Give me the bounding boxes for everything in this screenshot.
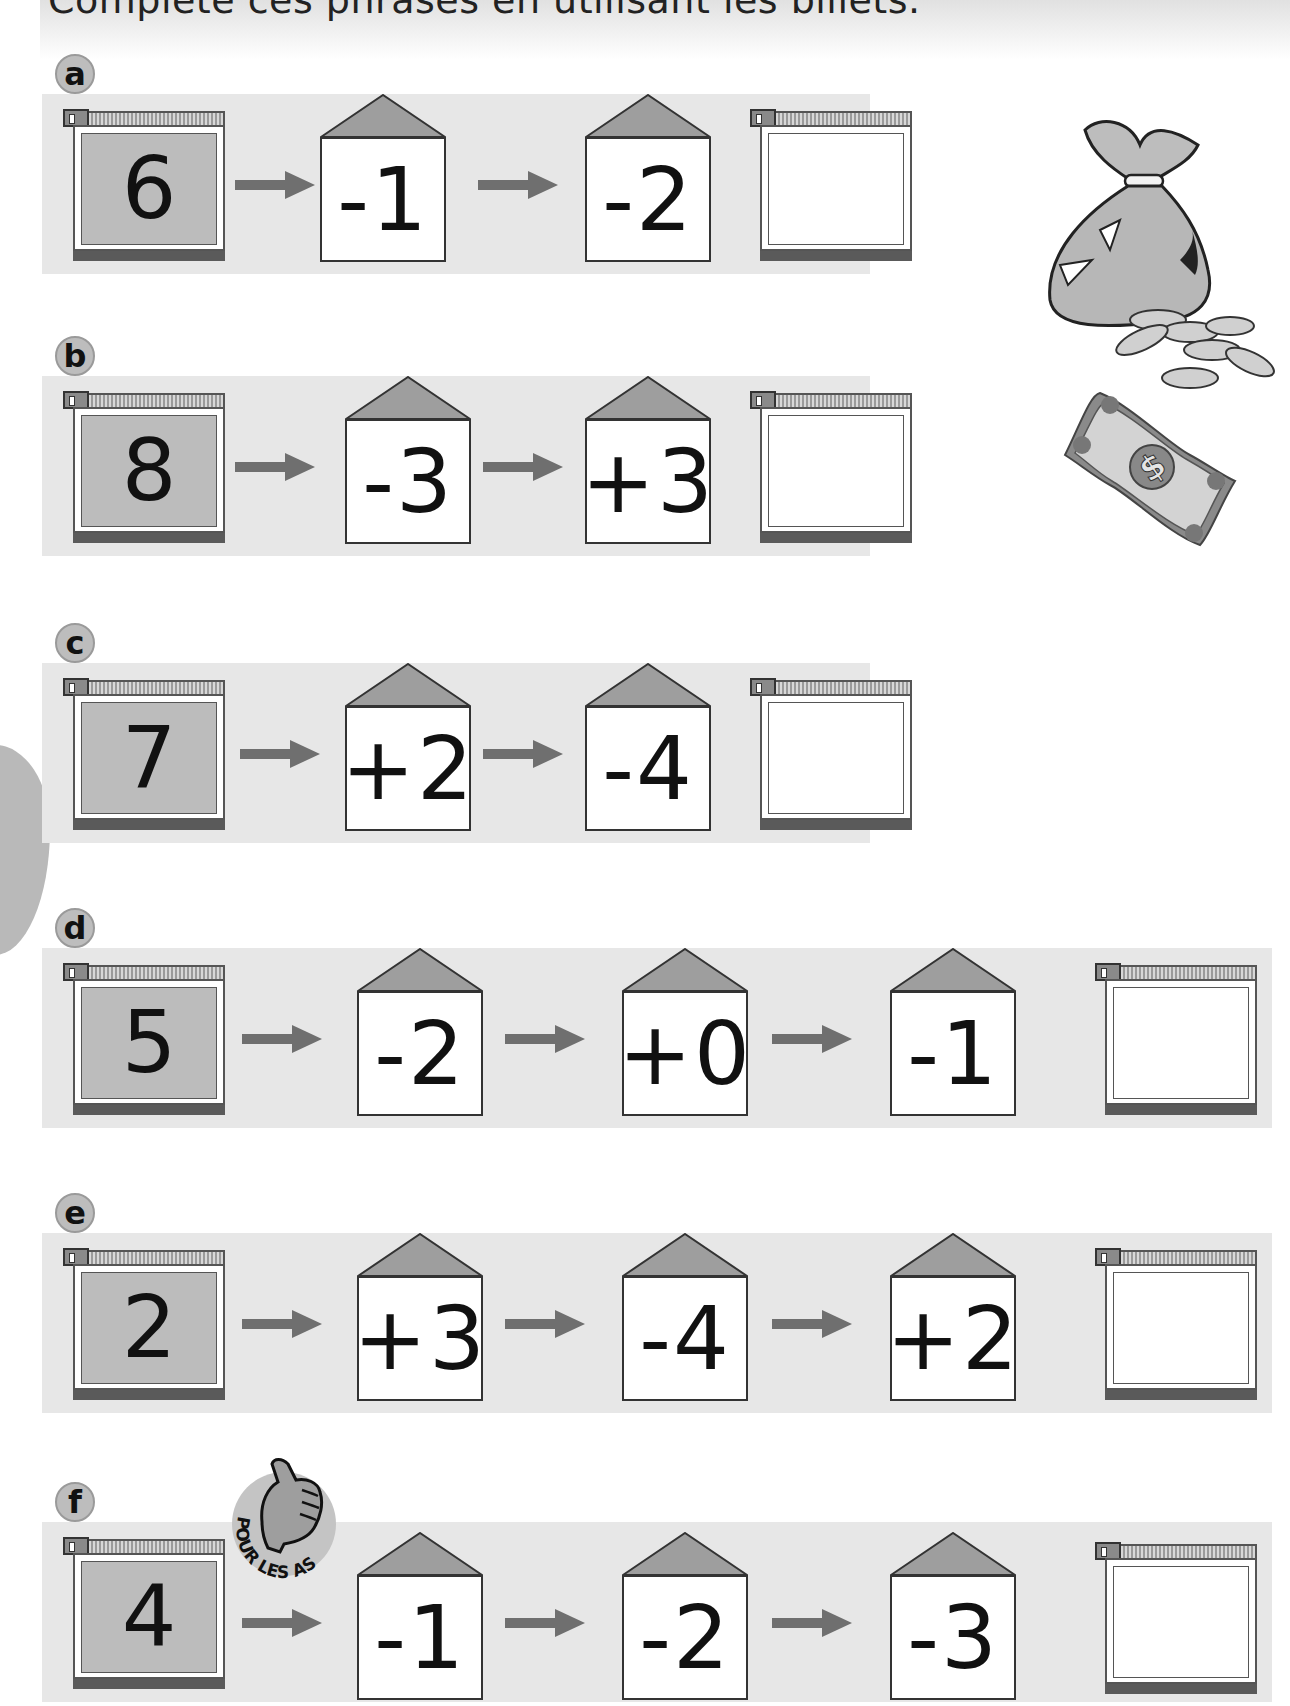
arrow-right-icon xyxy=(235,453,315,481)
answer-value[interactable] xyxy=(760,407,912,533)
start-wallet: 6 xyxy=(65,111,225,261)
operation-house: +2 xyxy=(890,1233,1016,1401)
pour-les-as-badge: POUR LES AS xyxy=(222,1452,342,1582)
arrow-right-icon xyxy=(505,1310,585,1338)
operation-house: +3 xyxy=(357,1233,483,1401)
roof-icon xyxy=(622,1233,748,1277)
operation-value: -4 xyxy=(622,1276,748,1401)
row-letter: e xyxy=(55,1193,95,1233)
arrow-right-icon xyxy=(240,740,320,768)
roof-icon xyxy=(622,1532,748,1576)
roof-icon xyxy=(320,94,446,138)
answer-wallet[interactable] xyxy=(752,111,912,261)
arrow-right-icon xyxy=(242,1609,322,1637)
roof-icon xyxy=(585,94,711,138)
row-letter: d xyxy=(55,908,95,948)
roof-icon xyxy=(622,948,748,992)
arrow-right-icon xyxy=(483,740,563,768)
row-letter: b xyxy=(55,336,95,376)
row-letter: f xyxy=(55,1482,95,1522)
roof-icon xyxy=(585,663,711,707)
start-wallet: 4 xyxy=(65,1539,225,1689)
operation-house: -3 xyxy=(890,1532,1016,1700)
row-letter: c xyxy=(55,623,95,663)
operation-house: -2 xyxy=(622,1532,748,1700)
exercise-row-e: e 2 +3 -4 +2 xyxy=(0,1193,1290,1433)
operation-house: -4 xyxy=(585,663,711,831)
operation-value: +0 xyxy=(622,991,748,1116)
operation-value: -1 xyxy=(320,137,446,262)
start-amount: 5 xyxy=(73,979,225,1105)
operation-house: -1 xyxy=(357,1532,483,1700)
money-bag-icon xyxy=(1030,100,1290,390)
answer-value[interactable] xyxy=(760,125,912,251)
operation-value: -2 xyxy=(357,991,483,1116)
operation-house: -1 xyxy=(890,948,1016,1116)
operation-value: +3 xyxy=(585,419,711,544)
operation-value: -3 xyxy=(345,419,471,544)
answer-value[interactable] xyxy=(760,694,912,820)
answer-wallet[interactable] xyxy=(752,393,912,543)
exercise-row-c: c 7 +2 -4 xyxy=(0,623,1290,863)
operation-value: -1 xyxy=(357,1575,483,1700)
roof-icon xyxy=(345,663,471,707)
answer-value[interactable] xyxy=(1105,1558,1257,1684)
arrow-right-icon xyxy=(772,1609,852,1637)
arrow-right-icon xyxy=(505,1025,585,1053)
start-wallet: 8 xyxy=(65,393,225,543)
operation-house: +3 xyxy=(585,376,711,544)
operation-house: +0 xyxy=(622,948,748,1116)
arrow-right-icon xyxy=(772,1025,852,1053)
answer-value[interactable] xyxy=(1105,1264,1257,1390)
roof-icon xyxy=(890,1532,1016,1576)
operation-value: -1 xyxy=(890,991,1016,1116)
roof-icon xyxy=(890,1233,1016,1277)
operation-value: +3 xyxy=(357,1276,483,1401)
start-wallet: 2 xyxy=(65,1250,225,1400)
roof-icon xyxy=(357,948,483,992)
operation-value: -4 xyxy=(585,706,711,831)
arrow-right-icon xyxy=(505,1609,585,1637)
banknote-icon: $ xyxy=(1040,385,1240,555)
row-letter: a xyxy=(55,54,95,94)
arrow-right-icon xyxy=(478,171,558,199)
start-amount: 2 xyxy=(73,1264,225,1390)
operation-house: +2 xyxy=(345,663,471,831)
answer-wallet[interactable] xyxy=(752,680,912,830)
operation-house: -2 xyxy=(585,94,711,262)
arrow-right-icon xyxy=(772,1310,852,1338)
roof-icon xyxy=(357,1532,483,1576)
arrow-right-icon xyxy=(242,1025,322,1053)
exercise-row-f: f 4 -1 -2 -3 xyxy=(0,1482,1290,1706)
roof-icon xyxy=(345,376,471,420)
operation-value: -2 xyxy=(585,137,711,262)
start-amount: 8 xyxy=(73,407,225,533)
operation-house: -2 xyxy=(357,948,483,1116)
start-amount: 7 xyxy=(73,694,225,820)
operation-value: -3 xyxy=(890,1575,1016,1700)
instruction-text: Complète ces phrases en utilisant les bi… xyxy=(48,0,921,22)
answer-value[interactable] xyxy=(1105,979,1257,1105)
operation-house: -1 xyxy=(320,94,446,262)
start-wallet: 5 xyxy=(65,965,225,1115)
operation-house: -4 xyxy=(622,1233,748,1401)
start-amount: 6 xyxy=(73,125,225,251)
operation-value: +2 xyxy=(345,706,471,831)
start-wallet: 7 xyxy=(65,680,225,830)
roof-icon xyxy=(357,1233,483,1277)
arrow-right-icon xyxy=(235,171,315,199)
roof-icon xyxy=(890,948,1016,992)
arrow-right-icon xyxy=(242,1310,322,1338)
roof-icon xyxy=(585,376,711,420)
operation-value: +2 xyxy=(890,1276,1016,1401)
answer-wallet[interactable] xyxy=(1097,1544,1257,1694)
operation-value: -2 xyxy=(622,1575,748,1700)
arrow-right-icon xyxy=(483,453,563,481)
answer-wallet[interactable] xyxy=(1097,965,1257,1115)
answer-wallet[interactable] xyxy=(1097,1250,1257,1400)
exercise-row-d: d 5 -2 +0 -1 xyxy=(0,908,1290,1148)
start-amount: 4 xyxy=(73,1553,225,1679)
operation-house: -3 xyxy=(345,376,471,544)
